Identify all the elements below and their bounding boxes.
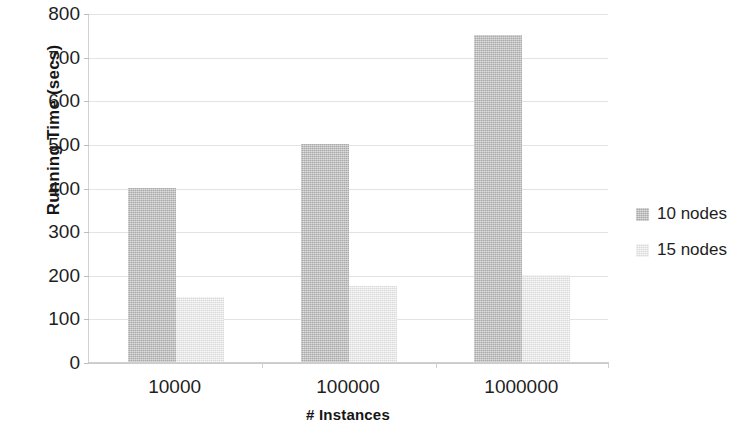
legend-swatch-10-nodes <box>636 208 649 221</box>
y-axis-tick-label: 0 <box>18 352 80 374</box>
category-separator <box>608 362 609 368</box>
bar-chart: Running Time (secs) 01002003004005006007… <box>0 0 738 440</box>
legend-item: 15 nodes <box>636 232 738 268</box>
y-axis-tick-label: 600 <box>18 90 80 112</box>
bar-15-nodes-100000 <box>349 286 397 362</box>
y-axis-tick-label: 200 <box>18 265 80 287</box>
plot-area <box>88 14 608 363</box>
x-axis-title: # Instances <box>88 406 608 423</box>
y-axis-tick-label: 100 <box>18 308 80 330</box>
gridline <box>89 363 608 364</box>
y-axis-tick-label: 700 <box>18 47 80 69</box>
y-axis-tick-label: 500 <box>18 134 80 156</box>
bar-10-nodes-100000 <box>301 144 349 362</box>
bar-10-nodes-10000 <box>128 188 176 363</box>
category-separator <box>262 362 263 368</box>
bar-15-nodes-1000000 <box>522 275 570 362</box>
y-axis-tick-labels: 0100200300400500600700800 <box>14 0 80 440</box>
legend-swatch-15-nodes <box>636 244 649 257</box>
bars-layer <box>89 14 608 362</box>
bar-10-nodes-1000000 <box>474 35 522 362</box>
legend-label: 10 nodes <box>657 204 727 224</box>
x-axis-tick-label: 10000 <box>148 376 201 398</box>
bar-15-nodes-10000 <box>176 297 224 362</box>
y-axis-tick-mark <box>84 363 89 364</box>
y-axis-tick-label: 800 <box>18 3 80 25</box>
legend-item: 10 nodes <box>636 196 738 232</box>
legend-label: 15 nodes <box>657 240 727 260</box>
y-axis-tick-label: 300 <box>18 221 80 243</box>
chart-legend: 10 nodes15 nodes <box>636 196 738 268</box>
x-axis-tick-label: 100000 <box>316 376 379 398</box>
x-axis-tick-labels: 100001000001000000 <box>88 376 608 402</box>
y-axis-tick-label: 400 <box>18 178 80 200</box>
x-axis-tick-label: 1000000 <box>484 376 558 398</box>
category-separator <box>436 362 437 368</box>
